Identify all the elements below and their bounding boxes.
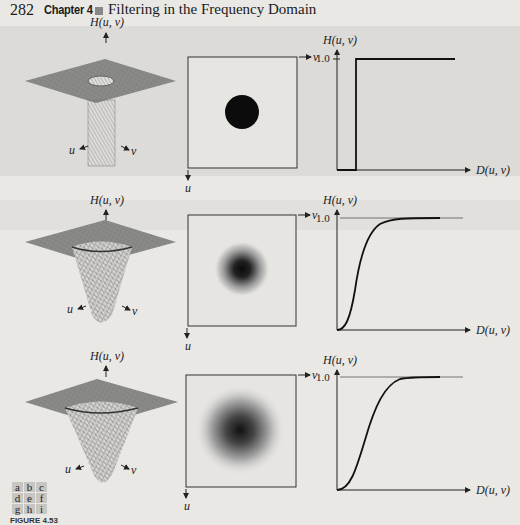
filter-image-ideal: v u [185, 50, 319, 195]
surface-z-label: H(u, v) [89, 349, 124, 363]
surface-plot-butterworth: H(u, v) u v [25, 193, 176, 323]
subfigure-label: e [24, 493, 35, 503]
profile-x-label: D(u, v) [475, 323, 510, 337]
filter-image-gaussian: v u [184, 368, 318, 513]
profile-y-label: H(u, v) [322, 353, 357, 367]
subfigure-label: c [36, 482, 47, 492]
u-axis-label: u [185, 181, 191, 195]
surface-z-label: H(u, v) [89, 193, 124, 207]
v-axis-label: v [131, 463, 137, 477]
profile-y-label: H(u, v) [322, 33, 357, 47]
filter-image-butterworth: v u [185, 208, 318, 353]
u-axis-label: u [65, 462, 71, 476]
v-axis-label: v [131, 144, 137, 158]
surface-plot-ideal: H(u, v) u v [25, 15, 176, 166]
profile-plot-butterworth: H(u, v) 1.0 D(u, v) [316, 193, 510, 337]
profile-plot-ideal: H(u, v) 1.0 D(u, v) [316, 33, 510, 177]
tick-one: 1.0 [316, 371, 330, 383]
u-axis-label: u [67, 302, 73, 316]
v-axis-label: v [132, 304, 138, 318]
subfigure-label: h [24, 504, 35, 514]
surface-plot-gaussian: H(u, v) u v [25, 349, 178, 483]
surface-z-label: H(u, v) [89, 15, 124, 29]
tick-one: 1.0 [316, 212, 330, 224]
subfigure-label: b [24, 482, 35, 492]
subfigure-label: f [36, 493, 47, 503]
u-axis-label: u [184, 499, 190, 513]
subfigure-label: a [12, 482, 23, 492]
subfigure-label: i [36, 504, 47, 514]
subfigure-label: d [12, 493, 23, 503]
subfigure-label: g [12, 504, 23, 514]
tick-one: 1.0 [316, 52, 330, 64]
figure-caption: FIGURE 4.53 [10, 516, 58, 525]
profile-x-label: D(u, v) [475, 163, 510, 177]
profile-x-label: D(u, v) [475, 483, 510, 497]
u-axis-label: u [185, 339, 191, 353]
u-axis-label: u [69, 143, 75, 157]
profile-plot-gaussian: H(u, v) 1.0 D(u, v) [316, 353, 510, 497]
subfigure-label-grid: a b c d e f g h i [12, 482, 47, 514]
profile-y-label: H(u, v) [322, 193, 357, 207]
